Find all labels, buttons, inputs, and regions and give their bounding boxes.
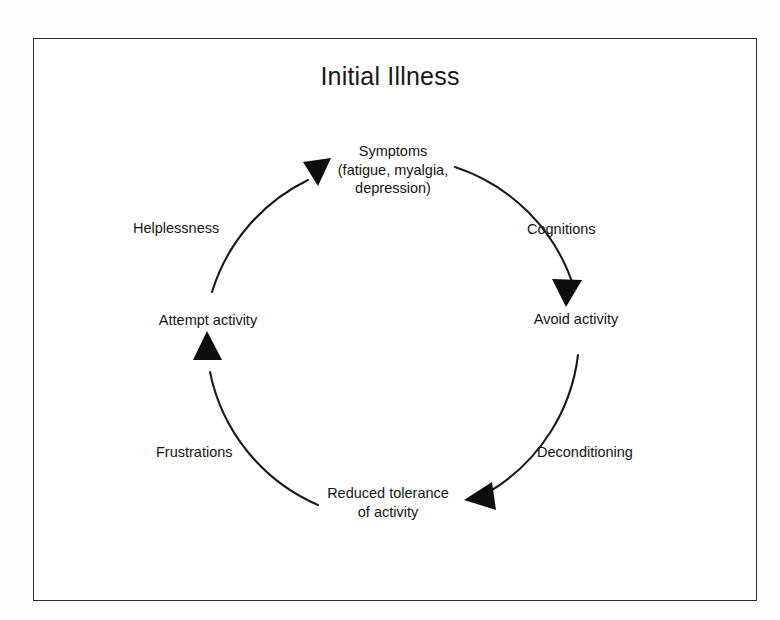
edge-label-helplessness: Helplessness [133, 219, 219, 238]
figure-title: Initial Illness [0, 62, 780, 91]
scanned-page: Initial Illness Symptoms (fatigue, myalg… [0, 0, 780, 620]
node-symptoms-line-2: (fatigue, myalgia, [263, 161, 523, 180]
node-symptoms: Symptoms (fatigue, myalgia, depression) [263, 142, 523, 198]
edge-label-deconditioning: Deconditioning [537, 443, 633, 462]
edge-label-cognitions: Cognitions [527, 220, 596, 239]
node-symptoms-line-3: depression) [263, 179, 523, 198]
node-attempt-activity-line-1: Attempt activity [128, 311, 288, 330]
node-avoid-activity-line-1: Avoid activity [496, 310, 656, 329]
node-reduced-tolerance-line-2: of activity [288, 503, 488, 522]
node-symptoms-line-1: Symptoms [263, 142, 523, 161]
node-avoid-activity: Avoid activity [496, 310, 656, 329]
edge-label-frustrations: Frustrations [156, 443, 233, 462]
node-attempt-activity: Attempt activity [128, 311, 288, 330]
node-reduced-tolerance-line-1: Reduced tolerance [288, 484, 488, 503]
node-reduced-tolerance: Reduced tolerance of activity [288, 484, 488, 521]
